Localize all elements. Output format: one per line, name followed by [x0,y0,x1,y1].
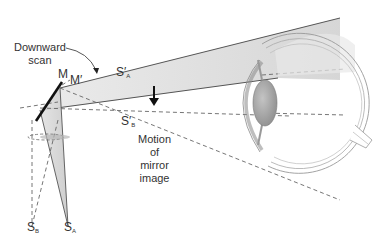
sb-prime-label: S′B [121,115,135,131]
downward-scan-label: Downward scan [14,41,66,67]
downward-scan-arrow [66,48,99,74]
sa-base: S [64,220,72,234]
sb-prime-sub: B [131,122,135,128]
sb-base: S [27,220,35,234]
sa-sub: A [72,228,76,234]
motion-label: Motion of mirror image [138,133,171,185]
sa-label: SA [64,221,76,237]
motion-label-line3: mirror [138,159,171,172]
mirror-scan-diagram: Downward scan M M′ S′A S′B Motion of mir… [0,0,390,245]
sa-prime-label: S′A [116,66,130,82]
sa-prime-base: S′ [116,65,126,79]
sb-label: SB [27,221,39,237]
mirror-prime-label: M′ [70,74,82,86]
motion-label-line2: of [138,146,171,159]
sa-prime-sub: A [126,73,130,79]
sb-sub: B [35,228,39,234]
lens-ellipse [28,134,70,140]
motion-label-line4: image [138,172,171,185]
scan-label-line2: scan [14,54,66,67]
scan-label-line1: Downward [14,41,66,54]
diagram-graphic [0,0,390,245]
mirror-label: M [58,68,68,80]
motion-label-line1: Motion [138,133,171,146]
sb-prime-base: S′ [121,114,131,128]
